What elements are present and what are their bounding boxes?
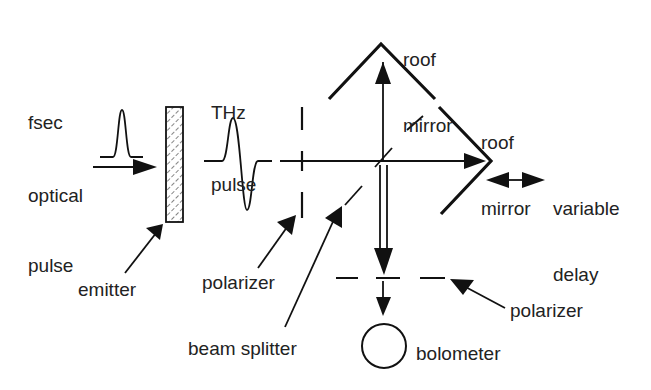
label-line: roof: [481, 132, 531, 154]
beam-splitter: [345, 186, 362, 205]
label-line: optical: [28, 185, 83, 207]
label-line: THz: [211, 102, 256, 124]
label-line: pulse: [28, 255, 83, 277]
label-fsec-optical-pulse: fsec optical pulse: [28, 68, 83, 321]
optical-pulse-waveform: [100, 110, 143, 157]
polarizer-right-pointer-arrowhead-icon: [450, 279, 474, 295]
label-line: mirror: [403, 115, 453, 137]
polarizer-left-pointer: [258, 223, 290, 268]
up-arrowhead-icon: [375, 62, 391, 84]
down-arrowhead-icon: [374, 248, 393, 275]
label-thz-pulse: THz pulse: [211, 58, 256, 240]
label-polarizer-right: polarizer: [510, 300, 583, 322]
label-roof-mirror-right: roof mirror: [481, 88, 531, 264]
detector-arrowhead-icon: [376, 297, 391, 316]
polarizer-pointer-arrowhead-icon: [277, 215, 296, 235]
label-line: mirror: [481, 198, 531, 220]
label-beam-splitter: beam splitter: [188, 338, 297, 360]
beam-splitter-pointer-arrowhead-icon: [325, 206, 342, 228]
beam-splitter-pointer: [285, 215, 336, 327]
label-line: pulse: [211, 174, 256, 196]
label-line: variable: [553, 198, 620, 220]
thz-interferometer-diagram: fsec optical pulse THz pulse roof mirror…: [0, 0, 651, 390]
label-emitter: emitter: [78, 279, 136, 301]
label-bolometer: bolometer: [416, 343, 501, 365]
label-roof-mirror-top: roof mirror: [403, 5, 453, 181]
label-line: delay: [553, 264, 620, 286]
emitter-pointer-arrowhead-icon: [146, 224, 163, 240]
bolometer-icon: [362, 324, 406, 368]
label-line: roof: [403, 49, 453, 71]
optical-arrowhead-icon: [133, 159, 157, 175]
label-polarizer-left: polarizer: [202, 272, 275, 294]
emitter-icon: [166, 107, 183, 222]
label-line: fsec: [28, 112, 83, 134]
